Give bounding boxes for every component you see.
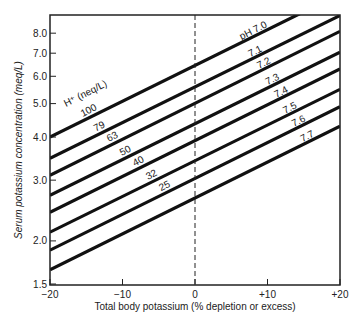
x-tick-label: −10 bbox=[114, 289, 131, 300]
y-tick-label: 6.0 bbox=[33, 71, 47, 82]
y-tick-label: 4.0 bbox=[33, 132, 47, 143]
x-tick-label: −20 bbox=[42, 289, 59, 300]
ph-label: 7.5 bbox=[281, 99, 299, 115]
y-tick-label: 7.0 bbox=[33, 48, 47, 59]
chart: 1.52.03.04.05.06.07.08.0 −20−100+10+20 p… bbox=[0, 0, 358, 327]
y-tick-label: 8.0 bbox=[33, 28, 47, 39]
ph-label: 7.1 bbox=[246, 43, 264, 59]
y-tick-label: 3.0 bbox=[33, 175, 47, 186]
x-axis-label: Total body potassium (% depletion or exc… bbox=[94, 301, 295, 312]
x-tick-label: +10 bbox=[259, 289, 276, 300]
ph-label: 7.3 bbox=[264, 71, 282, 87]
y-tick-label: 2.0 bbox=[33, 235, 47, 246]
y-axis-label: Serum potassium concentration (meq/L) bbox=[13, 61, 24, 239]
h-legend-title: H⁺ (neq/L) bbox=[62, 78, 109, 109]
y-tick-label: 1.5 bbox=[33, 279, 47, 290]
ph-label: 7.7 bbox=[298, 128, 316, 144]
x-tick-label: +20 bbox=[332, 289, 349, 300]
x-tick-label: 0 bbox=[192, 289, 198, 300]
ph-label: 7.6 bbox=[290, 113, 308, 129]
y-tick-label: 5.0 bbox=[33, 98, 47, 109]
x-axis: −20−100+10+20 bbox=[42, 279, 349, 300]
